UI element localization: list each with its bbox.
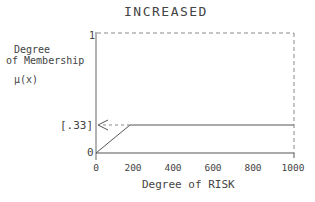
y-tick-033: [.33] (60, 119, 93, 132)
x-axis-label: Degree of RISK (142, 178, 235, 191)
x-tick-400: 400 (164, 162, 181, 173)
chart-plot (0, 0, 315, 202)
x-tick-800: 800 (244, 162, 261, 173)
membership-curve (96, 125, 294, 153)
y-tick-1: 1 (89, 30, 95, 41)
x-tick-1000: 1000 (282, 162, 305, 173)
x-tick-200: 200 (124, 162, 141, 173)
x-tick-0: 0 (93, 162, 99, 173)
y-tick-0: 0 (87, 146, 94, 159)
x-tick-600: 600 (204, 162, 221, 173)
